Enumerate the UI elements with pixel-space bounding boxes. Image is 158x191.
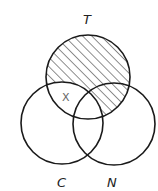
label-x-region: X [62, 91, 70, 104]
label-c: C [57, 175, 67, 190]
hatched-region-t-minus-c [0, 0, 158, 191]
label-n: N [107, 175, 117, 190]
label-t: T [83, 12, 92, 27]
venn-diagram: T C N X [0, 0, 158, 191]
